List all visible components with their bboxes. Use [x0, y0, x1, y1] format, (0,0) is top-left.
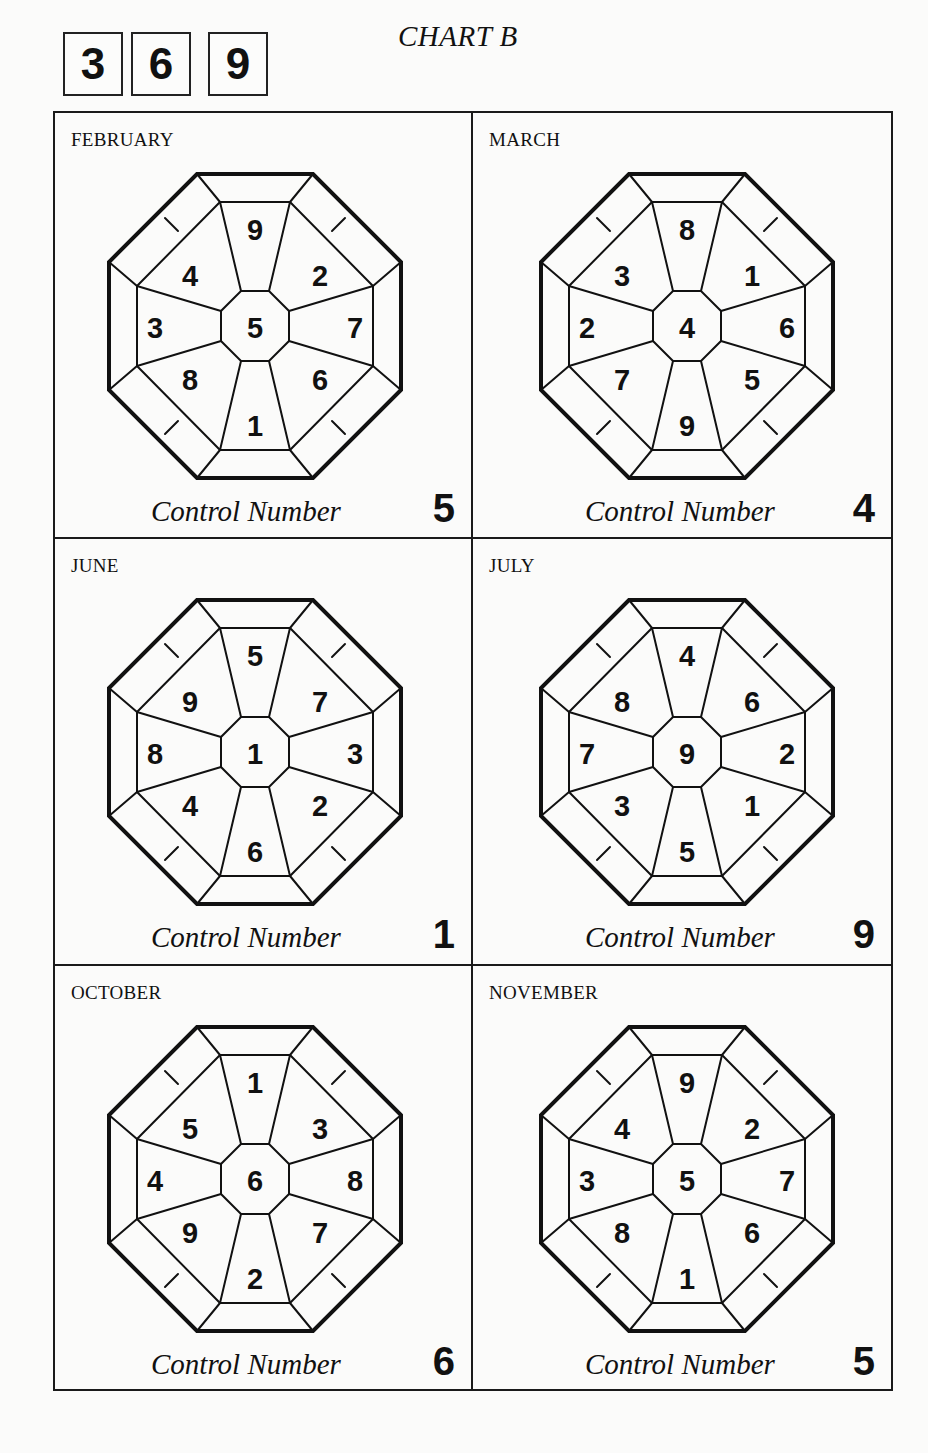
cell-number-top-right: 2 — [312, 260, 328, 292]
digit-box-2: 6 — [131, 32, 191, 96]
cell-number-bottom: 1 — [679, 1263, 695, 1295]
cell-number-right: 6 — [779, 312, 795, 344]
cell-number-top-left: 4 — [614, 1113, 630, 1145]
octagon-diagram: 592761834 — [105, 171, 405, 481]
cell-number-top: 5 — [247, 640, 263, 672]
cell-number-top-right: 3 — [312, 1113, 328, 1145]
center-number: 5 — [247, 312, 263, 344]
cell-number-top-right: 7 — [312, 686, 328, 718]
cell-number-top: 9 — [679, 1067, 695, 1099]
octagon-diagram: 481659723 — [537, 171, 837, 481]
cell-number-top-right: 1 — [744, 260, 760, 292]
cell-number-bottom-left: 3 — [614, 790, 630, 822]
cell-number-bottom: 1 — [247, 410, 263, 442]
cell-number-bottom-left: 9 — [182, 1217, 198, 1249]
control-number-value: 4 — [853, 486, 875, 531]
cell-number-bottom-left: 8 — [614, 1217, 630, 1249]
octagon-svg: 613872945 — [105, 1024, 405, 1334]
panel-february: FEBRUARY 592761834 Control Number 5 — [55, 113, 473, 539]
cell-number-bottom-right: 2 — [312, 790, 328, 822]
panel-november: NOVEMBER 592761834 Control Number 5 — [473, 966, 891, 1389]
cell-number-bottom-right: 5 — [744, 364, 760, 396]
page-header: 3 6 9 CHART B — [0, 0, 928, 108]
chart-grid: FEBRUARY 592761834 Control Number 5 MARC… — [53, 111, 893, 1391]
control-number-value: 6 — [433, 1339, 455, 1384]
center-number: 6 — [247, 1165, 263, 1197]
month-label: FEBRUARY — [71, 129, 174, 151]
center-number: 1 — [247, 738, 263, 770]
control-number-value: 9 — [853, 912, 875, 957]
cell-number-bottom: 5 — [679, 836, 695, 868]
month-label: MARCH — [489, 129, 560, 151]
panel-july: JULY 946215378 Control Number 9 — [473, 539, 891, 966]
digit-box-3: 9 — [208, 32, 268, 96]
cell-number-right: 3 — [347, 738, 363, 770]
cell-number-top-right: 6 — [744, 686, 760, 718]
control-number-label: Control Number — [151, 495, 341, 528]
control-number-label: Control Number — [585, 1348, 775, 1381]
digit-box-1: 3 — [63, 32, 123, 96]
cell-number-left: 3 — [147, 312, 163, 344]
control-number-value: 5 — [853, 1339, 875, 1384]
cell-number-top-left: 4 — [182, 260, 198, 292]
control-number-label: Control Number — [585, 495, 775, 528]
cell-number-bottom-right: 6 — [312, 364, 328, 396]
chart-title: CHART B — [398, 20, 518, 53]
panel-october: OCTOBER 613872945 Control Number 6 — [55, 966, 473, 1389]
month-label: JUNE — [71, 555, 119, 577]
cell-number-top: 8 — [679, 214, 695, 246]
cell-number-right: 7 — [779, 1165, 795, 1197]
cell-number-bottom-right: 7 — [312, 1217, 328, 1249]
cell-number-left: 7 — [579, 738, 595, 770]
cell-number-right: 8 — [347, 1165, 363, 1197]
octagon-svg: 592761834 — [105, 171, 405, 481]
octagon-svg: 592761834 — [537, 1024, 837, 1334]
cell-number-top: 1 — [247, 1067, 263, 1099]
cell-number-bottom: 6 — [247, 836, 263, 868]
octagon-diagram: 157326489 — [105, 597, 405, 907]
cell-number-top: 4 — [679, 640, 695, 672]
cell-number-bottom-left: 4 — [182, 790, 198, 822]
octagon-diagram: 946215378 — [537, 597, 837, 907]
month-label: JULY — [489, 555, 535, 577]
month-label: NOVEMBER — [489, 982, 598, 1004]
cell-number-top-left: 8 — [614, 686, 630, 718]
control-number-label: Control Number — [151, 921, 341, 954]
center-number: 4 — [679, 312, 695, 344]
cell-number-bottom-right: 6 — [744, 1217, 760, 1249]
octagon-svg: 946215378 — [537, 597, 837, 907]
panel-march: MARCH 481659723 Control Number 4 — [473, 113, 891, 539]
cell-number-top-left: 3 — [614, 260, 630, 292]
octagon-diagram: 613872945 — [105, 1024, 405, 1334]
cell-number-right: 2 — [779, 738, 795, 770]
center-number: 5 — [679, 1165, 695, 1197]
cell-number-left: 8 — [147, 738, 163, 770]
octagon-diagram: 592761834 — [537, 1024, 837, 1334]
cell-number-top-left: 9 — [182, 686, 198, 718]
center-number: 9 — [679, 738, 695, 770]
control-number-label: Control Number — [585, 921, 775, 954]
month-label: OCTOBER — [71, 982, 161, 1004]
cell-number-top-left: 5 — [182, 1113, 198, 1145]
octagon-svg: 481659723 — [537, 171, 837, 481]
cell-number-bottom: 9 — [679, 410, 695, 442]
control-number-label: Control Number — [151, 1348, 341, 1381]
cell-number-bottom-right: 1 — [744, 790, 760, 822]
cell-number-right: 7 — [347, 312, 363, 344]
cell-number-left: 3 — [579, 1165, 595, 1197]
cell-number-top-right: 2 — [744, 1113, 760, 1145]
octagon-svg: 157326489 — [105, 597, 405, 907]
cell-number-bottom-left: 7 — [614, 364, 630, 396]
cell-number-bottom-left: 8 — [182, 364, 198, 396]
panel-june: JUNE 157326489 Control Number 1 — [55, 539, 473, 966]
cell-number-top: 9 — [247, 214, 263, 246]
cell-number-left: 2 — [579, 312, 595, 344]
control-number-value: 5 — [433, 486, 455, 531]
cell-number-left: 4 — [147, 1165, 163, 1197]
control-number-value: 1 — [433, 912, 455, 957]
cell-number-bottom: 2 — [247, 1263, 263, 1295]
